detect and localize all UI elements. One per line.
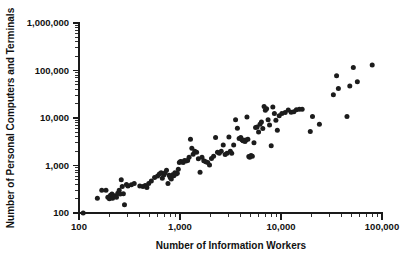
data-point: [336, 86, 341, 91]
data-point: [370, 63, 375, 68]
data-point: [300, 107, 305, 112]
data-point: [355, 79, 360, 84]
x-axis-tick-labels: 1001,00010,000100,000: [71, 221, 399, 232]
y-tick-label: 1,000: [45, 160, 69, 171]
data-point: [270, 105, 275, 110]
data-point: [310, 114, 315, 119]
y-tick-label: 1,000,000: [27, 17, 69, 28]
data-point: [272, 111, 277, 116]
data-point: [132, 181, 137, 186]
data-point: [226, 134, 231, 139]
data-point: [235, 126, 240, 131]
data-point: [351, 65, 356, 70]
data-point: [187, 155, 192, 160]
data-point: [176, 167, 181, 172]
data-point: [347, 84, 352, 89]
data-point: [266, 117, 271, 122]
data-point: [250, 154, 255, 159]
x-tick-label: 10,000: [266, 221, 295, 232]
data-point: [81, 211, 86, 216]
plot-canvas: 1001,00010,000100,0001,000,000 1001,0001…: [0, 0, 407, 255]
data-point: [229, 151, 234, 156]
y-tick-label: 100: [53, 207, 69, 218]
data-point: [273, 118, 278, 123]
data-point: [211, 154, 216, 159]
data-point: [164, 168, 169, 173]
data-point: [334, 73, 339, 78]
data-point: [269, 143, 274, 148]
data-point: [194, 150, 199, 155]
y-axis-title: Number of Personal Computers and Termina…: [5, 7, 16, 228]
data-point: [213, 135, 218, 140]
data-point: [245, 137, 250, 142]
data-points-layer: [81, 63, 375, 216]
data-point: [256, 129, 261, 134]
data-point: [344, 114, 349, 119]
data-point: [119, 177, 124, 182]
data-point: [251, 140, 256, 145]
data-point: [259, 120, 264, 125]
data-point: [207, 162, 212, 167]
y-axis-tick-labels: 1001,00010,000100,0001,000,000: [27, 17, 69, 218]
x-tick-label: 100,000: [365, 221, 399, 232]
y-tick-label: 100,000: [35, 65, 69, 76]
data-point: [275, 128, 280, 133]
data-point: [267, 123, 272, 128]
data-point: [264, 106, 269, 111]
data-point: [221, 143, 226, 148]
data-point: [233, 117, 238, 122]
data-point: [260, 126, 265, 131]
data-point: [95, 196, 100, 201]
data-point: [188, 137, 193, 142]
scatter-plot-figure: 1001,00010,000100,0001,000,000 1001,0001…: [0, 0, 407, 255]
data-point: [219, 149, 224, 154]
y-tick-label: 10,000: [40, 112, 69, 123]
data-point: [198, 170, 203, 175]
x-tick-label: 1,000: [168, 221, 192, 232]
data-point: [121, 191, 126, 196]
data-point: [103, 188, 108, 193]
x-tick-label: 100: [71, 221, 87, 232]
x-axis-major-ticks: [79, 213, 382, 220]
data-point: [244, 114, 249, 119]
data-point: [331, 92, 336, 97]
data-point: [231, 143, 236, 148]
data-point: [122, 202, 127, 207]
data-point: [165, 181, 170, 186]
data-point: [308, 129, 313, 134]
x-axis-title: Number of Information Workers: [156, 240, 307, 251]
data-point: [317, 122, 322, 127]
